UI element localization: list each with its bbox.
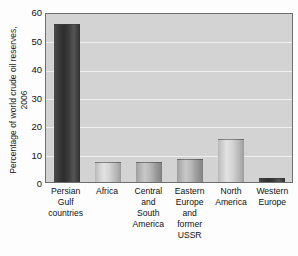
bar-slot (210, 14, 251, 182)
bars-layer (46, 14, 292, 182)
y-tick-label: 30 (22, 92, 42, 103)
y-tick-label: 40 (22, 64, 42, 75)
x-label-central-and-south-america: Central and South America (128, 186, 169, 230)
bar-persian-gulf-countries (54, 24, 80, 182)
bar-central-and-south-america (136, 162, 162, 182)
y-tick-label: 20 (22, 121, 42, 132)
bar-chart: Percentage of world crude oil reserves, … (0, 0, 298, 256)
plot-area (45, 13, 293, 183)
bar-slot (87, 14, 128, 182)
x-label-north-america: North America (210, 186, 251, 208)
bar-slot (46, 14, 87, 182)
x-label-eastern-europe-and-former-ussr: Eastern Europe and former USSR (169, 186, 210, 241)
bar-slot (169, 14, 210, 182)
y-tick-label: 0 (22, 178, 42, 189)
bar-slot (128, 14, 169, 182)
bar-africa (95, 162, 121, 182)
y-tick-label: 50 (22, 35, 42, 46)
bar-eastern-europe-and-former-ussr (177, 159, 203, 182)
y-axis-tick-labels: 60 50 40 30 20 10 0 (22, 12, 42, 183)
bar-western-europe (259, 178, 285, 182)
bar-slot (251, 14, 292, 182)
y-tick-label: 60 (22, 7, 42, 18)
x-label-western-europe: Western Europe (252, 186, 293, 208)
x-label-africa: Africa (86, 186, 127, 197)
x-label-persian-gulf-countries: Persian Gulf countries (45, 186, 86, 219)
y-tick-label: 10 (22, 149, 42, 160)
bar-north-america (218, 139, 244, 182)
x-axis-category-labels: Persian Gulf countries Africa Central an… (45, 186, 293, 254)
